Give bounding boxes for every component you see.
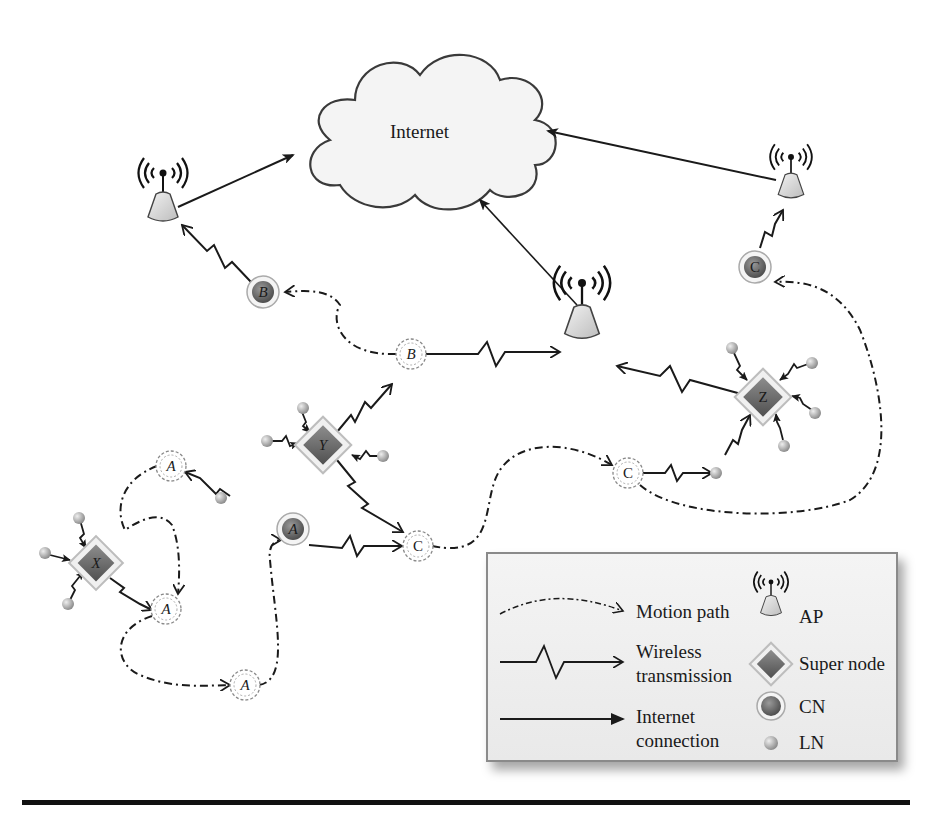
leaf-node bbox=[297, 402, 309, 414]
leaf-node bbox=[726, 342, 738, 354]
ghost-node-c-right: C bbox=[613, 458, 643, 488]
cn-node-a: A bbox=[277, 513, 309, 545]
leaf-node bbox=[73, 512, 85, 524]
svg-text:B: B bbox=[258, 284, 267, 300]
leaf-node bbox=[261, 435, 273, 447]
access-point-left-icon bbox=[139, 158, 188, 221]
leaf-node bbox=[710, 467, 722, 479]
cn-node-c: C bbox=[739, 251, 771, 283]
legend-internet-label-1: Internet bbox=[636, 706, 695, 728]
internet-label: Internet bbox=[390, 121, 449, 143]
svg-text:A: A bbox=[160, 601, 171, 617]
legend-super-node-icon bbox=[750, 643, 792, 685]
svg-text:X: X bbox=[90, 555, 101, 571]
leaf-node bbox=[778, 440, 790, 452]
bottom-rule-divider bbox=[22, 800, 910, 805]
leaf-node bbox=[809, 407, 821, 419]
legend-motion-path-label: Motion path bbox=[636, 601, 729, 623]
ghost-node-a-top: A bbox=[156, 451, 186, 481]
svg-text:C: C bbox=[413, 538, 423, 554]
leaf-node bbox=[62, 598, 74, 610]
leaf-node bbox=[215, 492, 227, 504]
ghost-node-a-bottom: A bbox=[230, 670, 260, 700]
legend-super-node-label: Super node bbox=[799, 653, 885, 675]
leaf-node bbox=[377, 450, 389, 462]
legend: Motion path Wireless transmission Intern… bbox=[486, 552, 898, 762]
ghost-node-a-mid: A bbox=[151, 594, 181, 624]
ghost-node-b: B bbox=[396, 339, 426, 369]
legend-ap-label: AP bbox=[799, 606, 823, 628]
svg-text:A: A bbox=[165, 458, 176, 474]
legend-motion-path-icon bbox=[500, 599, 623, 614]
svg-text:Z: Z bbox=[758, 389, 767, 405]
wireless-links bbox=[110, 210, 783, 610]
ghost-node-c-mid: C bbox=[403, 531, 433, 561]
svg-text:C: C bbox=[623, 465, 633, 481]
legend-wireless-icon bbox=[500, 646, 623, 678]
access-point-center-icon bbox=[554, 266, 610, 338]
legend-wireless-label-1: Wireless bbox=[636, 641, 702, 663]
legend-internet-label-2: connection bbox=[636, 730, 719, 752]
svg-text:A: A bbox=[287, 521, 298, 537]
access-point-right-icon bbox=[770, 144, 812, 198]
legend-cn-icon bbox=[757, 692, 785, 720]
leaf-node bbox=[806, 357, 818, 369]
legend-ap-icon bbox=[754, 572, 788, 616]
legend-ln-icon bbox=[764, 736, 778, 750]
cn-node-b: B bbox=[247, 276, 279, 308]
svg-text:B: B bbox=[406, 346, 415, 362]
legend-ln-label: LN bbox=[799, 732, 824, 754]
svg-text:C: C bbox=[750, 259, 760, 275]
legend-cn-label: CN bbox=[799, 696, 825, 718]
legend-wireless-label-2: transmission bbox=[636, 665, 732, 687]
svg-text:A: A bbox=[239, 677, 250, 693]
leaf-node bbox=[39, 547, 51, 559]
